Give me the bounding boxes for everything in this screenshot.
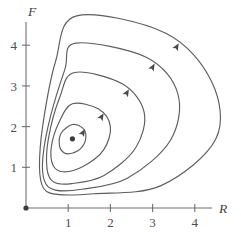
- y-axis-label: F: [27, 4, 37, 19]
- orbit-curves-group: [39, 15, 220, 195]
- y-tick-label: 4: [11, 38, 18, 53]
- x-tick-label: 1: [65, 215, 72, 230]
- x-tick-label: 4: [192, 215, 199, 230]
- y-tick-label: 2: [11, 120, 18, 135]
- phase-portrait-figure: 12341234 R F: [0, 0, 241, 242]
- marker-points-group: [23, 136, 75, 210]
- x-tick-label: 3: [149, 215, 156, 230]
- phase-plane-plot: 12341234 R F: [0, 0, 241, 242]
- x-tick-label: 2: [107, 215, 114, 230]
- orbit-curve: [42, 43, 179, 191]
- orbit-curve: [47, 72, 145, 184]
- y-tick-label: 3: [11, 79, 18, 94]
- flow-arrow-icon: [172, 42, 181, 52]
- equilibrium-point: [70, 136, 75, 141]
- x-axis-label: R: [218, 201, 228, 216]
- orbit-curve: [39, 15, 220, 195]
- tick-labels-group: 12341234: [11, 38, 199, 230]
- origin-point: [23, 205, 28, 210]
- y-tick-label: 1: [11, 160, 18, 175]
- flow-arrow-icon: [97, 112, 106, 122]
